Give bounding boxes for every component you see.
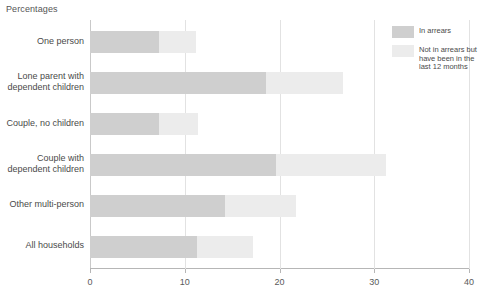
y-axis-line	[90, 20, 91, 269]
bar-segment-in-arrears	[90, 72, 266, 94]
category-label: Other multi-person	[0, 199, 84, 210]
bar-segment-in-arrears	[90, 31, 159, 53]
category-label: Lone parent withdependent children	[0, 71, 84, 93]
x-tick-label: 10	[180, 277, 190, 287]
category-label: Couple, no children	[0, 118, 84, 129]
x-tick-label: 30	[369, 277, 379, 287]
axis-title: Percentages	[6, 4, 58, 14]
legend-swatch	[392, 26, 414, 38]
x-tick-mark	[469, 269, 470, 273]
x-tick-label: 0	[87, 277, 92, 287]
category-label: All households	[0, 240, 84, 251]
bar-segment-past-arrears	[225, 195, 296, 217]
bar-segment-past-arrears	[159, 113, 198, 135]
bar-row	[90, 113, 469, 135]
bar-segment-in-arrears	[90, 113, 159, 135]
bar-segment-past-arrears	[159, 31, 196, 53]
gridline	[374, 20, 375, 269]
bar-row	[90, 154, 469, 176]
gridline	[280, 20, 281, 269]
x-tick-mark	[185, 269, 186, 273]
bar-segment-past-arrears	[276, 154, 386, 176]
bar-segment-past-arrears	[197, 236, 253, 258]
x-tick-label: 40	[464, 277, 474, 287]
legend-label: Not in arrears but have been in the last…	[419, 45, 478, 72]
chart-legend: In arrearsNot in arrears but have been i…	[392, 26, 478, 77]
legend-swatch	[392, 45, 414, 57]
category-label: Couple withdependent children	[0, 153, 84, 175]
gridline	[185, 20, 186, 269]
bar-row	[90, 236, 469, 258]
bar-segment-in-arrears	[90, 195, 225, 217]
legend-item[interactable]: Not in arrears but have been in the last…	[392, 45, 478, 72]
legend-item[interactable]: In arrears	[392, 26, 478, 40]
bar-segment-in-arrears	[90, 154, 276, 176]
x-tick-mark	[280, 269, 281, 273]
x-tick-mark	[90, 269, 91, 273]
legend-label: In arrears	[419, 26, 478, 36]
x-tick-label: 20	[274, 277, 284, 287]
bar-segment-in-arrears	[90, 236, 197, 258]
bar-chart: Percentages 010203040 In arrearsNot in a…	[0, 0, 479, 296]
bar-segment-past-arrears	[266, 72, 343, 94]
bar-row	[90, 195, 469, 217]
x-tick-mark	[374, 269, 375, 273]
category-label: One person	[0, 36, 84, 47]
